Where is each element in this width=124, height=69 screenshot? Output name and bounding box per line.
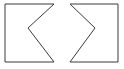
- figure-canvas: [0, 0, 124, 69]
- right-chevron-notch-polygon: [70, 4, 118, 62]
- left-chevron-notch-polygon: [5, 4, 54, 62]
- shapes-drawing: [0, 0, 124, 69]
